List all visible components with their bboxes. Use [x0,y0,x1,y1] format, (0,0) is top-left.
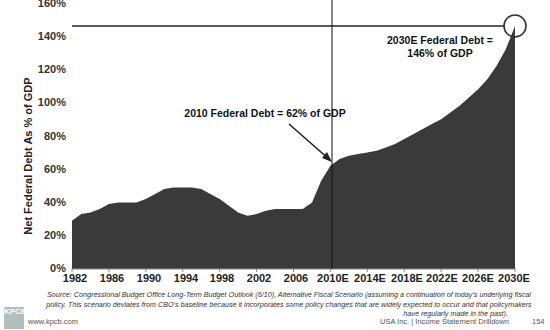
footer-deck-title: USA Inc. | Income Statement Drilldown [380,317,509,326]
debt-area [72,26,515,269]
x-tick: 1986 [100,272,124,284]
source-line-1: Source: Congressional Budget Office Long… [40,290,538,300]
source-note: Source: Congressional Budget Office Long… [40,290,538,319]
y-tick: 100% [0,96,66,108]
y-axis-label: Net Federal Debt As % of GDP [22,66,34,246]
footer-url[interactable]: www.kpcb.com [28,317,78,326]
source-line-2: policy. This scenario deviates from CBO'… [40,300,538,310]
y-tick: 20% [0,229,66,241]
y-tick: 120% [0,63,66,75]
x-tick: 1982 [63,272,87,284]
annotation-2030: 2030E Federal Debt = 146% of GDP [380,34,500,60]
y-tick: 140% [0,30,66,42]
x-tick: 2022E [426,272,458,284]
y-tick: 0% [0,262,66,274]
x-tick: 1994 [174,272,198,284]
annotation-2030-line1: 2030E Federal Debt = [380,34,500,47]
annotation-2010: 2010 Federal Debt = 62% of GDP [180,107,350,119]
y-tick: 60% [0,163,66,175]
y-tick: 40% [0,196,66,208]
y-tick: 160% [0,0,66,9]
x-tick: 2002 [247,272,271,284]
x-tick: 2006 [284,272,308,284]
x-tick: 2018E [391,272,423,284]
x-tick: 2026E [462,272,494,284]
y-tick: 80% [0,130,66,142]
kpcb-logo: KPCB [4,307,24,329]
annotation-2030-line2: 146% of GDP [380,47,500,60]
x-tick: 1998 [210,272,234,284]
x-tick: 1990 [137,272,161,284]
page-number: 154 [532,317,545,326]
x-tick: 2014E [354,272,386,284]
x-tick: 2010E [317,272,349,284]
arrow-2010 [289,124,330,160]
x-tick: 2030E [498,272,530,284]
